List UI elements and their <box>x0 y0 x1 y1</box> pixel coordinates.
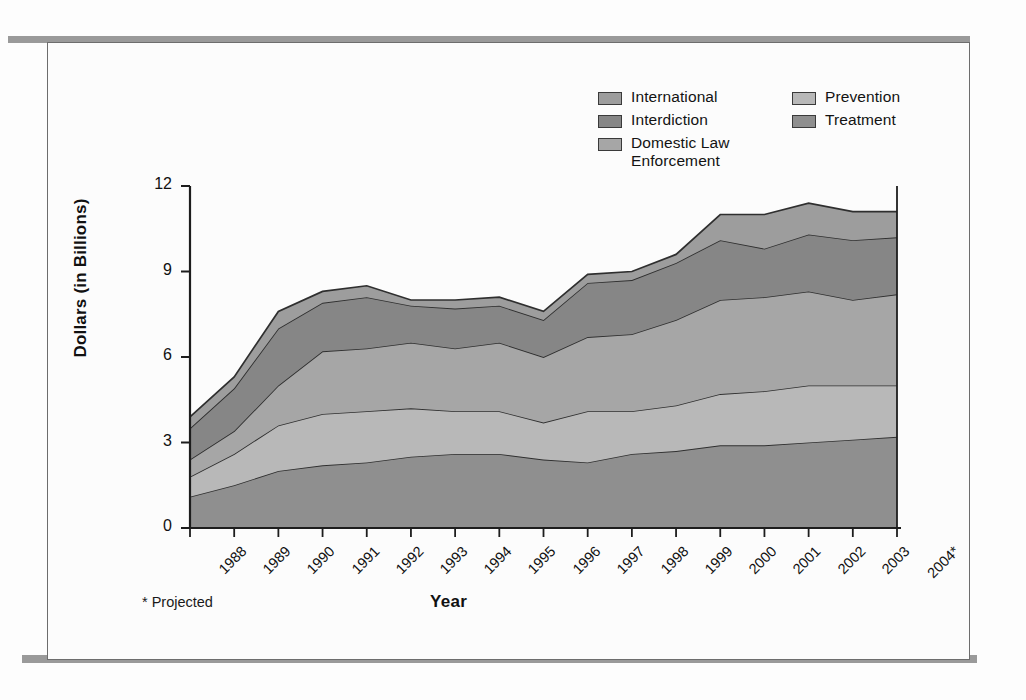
y-tick-label-6: 6 <box>132 346 172 364</box>
legend-item-prevention[interactable]: Prevention <box>792 88 900 109</box>
legend-label-prevention: Prevention <box>825 88 900 106</box>
legend-column-right: Prevention Treatment <box>792 88 900 134</box>
legend-item-treatment[interactable]: Treatment <box>792 111 900 132</box>
legend-label-domestic-law-enforcement: Domestic Law Enforcement <box>631 134 730 170</box>
y-axis-title: Dollars (in Billions) <box>71 163 91 393</box>
chart-footnote: * Projected <box>142 594 213 610</box>
legend-label-interdiction: Interdiction <box>631 111 708 129</box>
legend-column-left: International Interdiction Domestic Law … <box>598 88 730 176</box>
chart-legend: International Interdiction Domestic Law … <box>552 88 942 170</box>
legend-label-international: International <box>631 88 718 106</box>
legend-item-interdiction[interactable]: Interdiction <box>598 111 730 132</box>
y-tick-label-12: 12 <box>132 175 172 193</box>
y-tick-label-0: 0 <box>132 517 172 535</box>
legend-label-treatment: Treatment <box>825 111 896 129</box>
legend-item-international[interactable]: International <box>598 88 730 109</box>
legend-swatch-international <box>598 92 622 105</box>
y-tick-label-3: 3 <box>132 432 172 450</box>
figure-page: International Interdiction Domestic Law … <box>0 0 1026 700</box>
legend-item-domestic-law-enforcement[interactable]: Domestic Law Enforcement <box>598 134 730 174</box>
legend-swatch-interdiction <box>598 115 622 128</box>
legend-swatch-treatment <box>792 115 816 128</box>
legend-swatch-domestic-law-enforcement <box>598 138 622 151</box>
x-axis-title: Year <box>430 592 467 612</box>
legend-swatch-prevention <box>792 92 816 105</box>
y-tick-label-9: 9 <box>132 261 172 279</box>
